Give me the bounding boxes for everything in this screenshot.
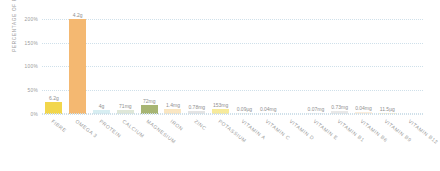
- x-label-slot: VITAMIN B12: [399, 116, 423, 168]
- bar-group[interactable]: [280, 14, 304, 114]
- bar[interactable]: [69, 19, 86, 114]
- bar-value-label: 0.04mg: [260, 106, 277, 112]
- x-axis-labels: FIBREOMEGA 3PROTEINCALCIUMMAGNESIUMIRONZ…: [42, 116, 423, 168]
- x-label-slot: CALCIUM: [113, 116, 137, 168]
- y-tick-label: 0%: [30, 112, 38, 117]
- bar-group[interactable]: 0.04mg: [256, 14, 280, 114]
- bar-value-label: 0.09µg: [237, 106, 252, 112]
- bar-group[interactable]: 153mg: [209, 14, 233, 114]
- x-label-slot: VITAMIN B9: [375, 116, 399, 168]
- bar-value-label: 0.04mg: [355, 105, 372, 111]
- x-label-slot: VITAMIN B1: [328, 116, 352, 168]
- x-label-slot: OMEGA 3: [66, 116, 90, 168]
- bar-value-label: 4g: [99, 103, 105, 109]
- bar-value-label: 72mg: [143, 98, 156, 104]
- bar-group[interactable]: 1.4mg: [161, 14, 185, 114]
- axis-baseline: [42, 113, 423, 114]
- x-label-slot: VITAMIN D: [280, 116, 304, 168]
- x-label-slot: MAGNESIUM: [137, 116, 161, 168]
- x-label-slot: FIBRE: [42, 116, 66, 168]
- bar-value-label: 0.73mg: [331, 104, 348, 110]
- bar-group[interactable]: 72mg: [137, 14, 161, 114]
- bar-group[interactable]: [399, 14, 423, 114]
- bar-value-label: 4.2g: [73, 12, 83, 18]
- x-label-slot: VITAMIN C: [256, 116, 280, 168]
- y-axis-title: PERCENTAGE OF RDA: [12, 0, 17, 71]
- x-label-slot: VITAMIN E: [304, 116, 328, 168]
- bar-group[interactable]: 0.73mg: [328, 14, 352, 114]
- x-label-slot: VITAMIN A: [233, 116, 257, 168]
- bar-group[interactable]: 11.5µg: [375, 14, 399, 114]
- x-label-slot: PROTEIN: [90, 116, 114, 168]
- x-label-slot: POTASSIUM: [209, 116, 233, 168]
- y-tick-label: 50%: [27, 88, 38, 93]
- gridline-0: [42, 114, 423, 115]
- y-tick-label: 100%: [25, 64, 38, 69]
- x-label-slot: ZINC: [185, 116, 209, 168]
- y-tick-label: 200%: [25, 16, 38, 21]
- y-tick-label: 150%: [25, 40, 38, 45]
- bar-value-label: 1.4mg: [166, 102, 180, 108]
- x-axis-category-label: VITAMIN B12: [407, 118, 439, 145]
- bar-group[interactable]: 71mg: [113, 14, 137, 114]
- bar-value-label: 71mg: [119, 103, 132, 109]
- bar-group[interactable]: 4g: [90, 14, 114, 114]
- bar-group[interactable]: 0.04mg: [352, 14, 376, 114]
- x-label-slot: IRON: [161, 116, 185, 168]
- bar-group[interactable]: 4.2g: [66, 14, 90, 114]
- x-label-slot: VITAMIN B6: [352, 116, 376, 168]
- bar-value-label: 0.78mg: [188, 104, 205, 110]
- bar-value-label: 6.2g: [49, 95, 59, 101]
- x-axis-category-label: ZINC: [193, 118, 208, 131]
- plot-area: 0%50%100%150%200% 6.2g4.2g4g71mg72mg1.4m…: [42, 14, 423, 114]
- bar-value-label: 0.07mg: [308, 106, 325, 112]
- bar-group[interactable]: 0.78mg: [185, 14, 209, 114]
- bar-group[interactable]: 0.07mg: [304, 14, 328, 114]
- bar-group[interactable]: 6.2g: [42, 14, 66, 114]
- bar-series: 6.2g4.2g4g71mg72mg1.4mg0.78mg153mg0.09µg…: [42, 14, 423, 114]
- bar-value-label: 11.5µg: [380, 106, 395, 112]
- bar-group[interactable]: 0.09µg: [233, 14, 257, 114]
- x-axis-category-label: IRON: [169, 118, 184, 132]
- bar-value-label: 153mg: [213, 102, 228, 108]
